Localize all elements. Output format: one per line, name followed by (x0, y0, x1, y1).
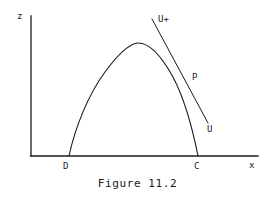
production-curve (69, 43, 198, 156)
tangent-line (152, 19, 208, 123)
plot-canvas (0, 0, 275, 199)
point-label-c: C (194, 161, 199, 171)
y-axis-label: z (17, 11, 22, 21)
point-label-p: P (192, 72, 197, 82)
point-label-u-plus: U+ (158, 14, 169, 24)
point-label-d: D (63, 161, 68, 171)
figure-container: z x D C P U+ U Figure 11.2 (0, 0, 275, 199)
point-label-u: U (207, 124, 212, 134)
x-axis-label: x (249, 160, 254, 170)
figure-caption: Figure 11.2 (0, 177, 275, 190)
